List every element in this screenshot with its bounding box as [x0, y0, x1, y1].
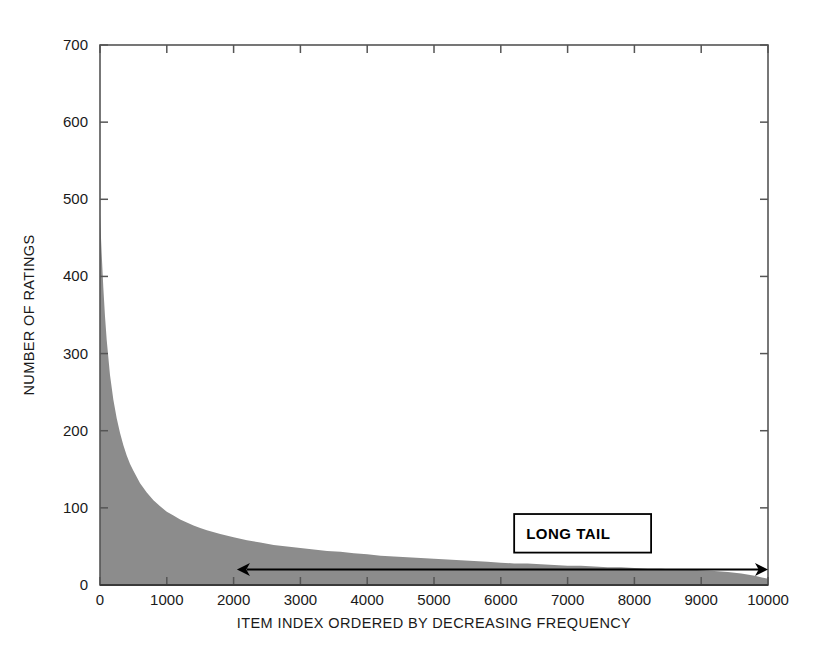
x-tick-label: 10000 — [747, 591, 789, 608]
x-tick-label: 5000 — [417, 591, 450, 608]
chart-figure: 0100020003000400050006000700080009000100… — [0, 0, 830, 661]
x-tick-label: 8000 — [618, 591, 651, 608]
long-tail-area-chart: 0100020003000400050006000700080009000100… — [0, 0, 830, 661]
y-tick-label: 300 — [63, 345, 88, 362]
y-tick-label: 500 — [63, 190, 88, 207]
y-tick-label: 200 — [63, 422, 88, 439]
x-tick-label: 2000 — [217, 591, 250, 608]
x-tick-label: 7000 — [551, 591, 584, 608]
x-tick-label: 3000 — [284, 591, 317, 608]
x-axis-title: ITEM INDEX ORDERED BY DECREASING FREQUEN… — [237, 615, 631, 631]
x-tick-label: 0 — [96, 591, 104, 608]
x-tick-label: 6000 — [484, 591, 517, 608]
y-axis-title: NUMBER OF RATINGS — [21, 234, 37, 395]
y-tick-label: 600 — [63, 113, 88, 130]
x-tick-label: 1000 — [150, 591, 183, 608]
y-tick-label: 700 — [63, 36, 88, 53]
y-tick-label: 400 — [63, 267, 88, 284]
x-tick-label: 9000 — [685, 591, 718, 608]
x-tick-label: 4000 — [351, 591, 384, 608]
y-tick-label: 0 — [80, 576, 88, 593]
y-tick-label: 100 — [63, 499, 88, 516]
long-tail-label: LONG TAIL — [526, 525, 610, 542]
